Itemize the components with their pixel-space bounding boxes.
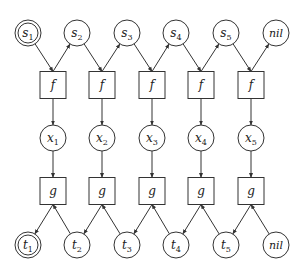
factor-box-g5: g bbox=[238, 178, 264, 205]
output-node-t1: t1 bbox=[15, 232, 41, 258]
edge-g2-to-t2 bbox=[84, 205, 102, 234]
node-label: nil bbox=[269, 239, 284, 252]
edge-t4-to-g3 bbox=[152, 205, 169, 234]
factor-box-f3: f bbox=[139, 72, 165, 99]
edge-g3-to-t3 bbox=[134, 205, 152, 234]
edge-s5-to-f5 bbox=[233, 44, 251, 72]
factor-label: g bbox=[197, 184, 205, 198]
factor-box-g1: g bbox=[40, 178, 66, 205]
edge-nil_bottom-to-g5 bbox=[251, 205, 269, 234]
factor-box-f5: f bbox=[238, 72, 264, 99]
node-label: nil bbox=[269, 27, 284, 40]
edge-g1-to-t1 bbox=[35, 205, 53, 234]
factor-box-f1: f bbox=[40, 72, 66, 99]
variable-node-x4: x4 bbox=[188, 125, 214, 151]
edge-t5-to-g4 bbox=[201, 205, 219, 234]
factor-box-f2: f bbox=[89, 72, 115, 99]
state-node-s5: s5 bbox=[213, 20, 239, 46]
state-node-s4: s4 bbox=[163, 20, 189, 46]
edge-t2-to-g1 bbox=[53, 205, 70, 234]
edge-s1-to-f1 bbox=[35, 44, 53, 72]
edge-f2-to-s3 bbox=[102, 44, 120, 72]
state-node-s1: s1 bbox=[15, 20, 41, 46]
edge-s4-to-f4 bbox=[183, 44, 201, 72]
edge-s2-to-f2 bbox=[84, 44, 102, 72]
factor-label: g bbox=[98, 184, 106, 198]
nodes: s1s2s3s4s5nilfffffx1x2x3x4x5gggggt1t2t3t… bbox=[15, 20, 289, 258]
output-node-nil_bottom: nil bbox=[263, 232, 289, 258]
factor-box-g2: g bbox=[89, 178, 115, 205]
factor-label: g bbox=[148, 184, 156, 198]
edge-g5-to-t5 bbox=[233, 205, 251, 234]
output-node-t4: t4 bbox=[163, 232, 189, 258]
edge-f4-to-s5 bbox=[201, 44, 219, 72]
factor-label: g bbox=[247, 184, 255, 198]
edge-f5-to-nil_top bbox=[251, 44, 269, 72]
state-node-s3: s3 bbox=[114, 20, 140, 46]
state-node-s2: s2 bbox=[64, 20, 90, 46]
output-node-t3: t3 bbox=[114, 232, 140, 258]
output-node-t2: t2 bbox=[64, 232, 90, 258]
edge-t3-to-g2 bbox=[102, 205, 120, 234]
variable-node-x5: x5 bbox=[238, 125, 264, 151]
factor-graph-diagram: s1s2s3s4s5nilfffffx1x2x3x4x5gggggt1t2t3t… bbox=[0, 0, 307, 276]
variable-node-x2: x2 bbox=[89, 125, 115, 151]
variable-node-x3: x3 bbox=[139, 125, 165, 151]
state-node-nil_top: nil bbox=[263, 20, 289, 46]
factor-box-f4: f bbox=[188, 72, 214, 99]
edge-f3-to-s4 bbox=[152, 44, 169, 71]
variable-node-x1: x1 bbox=[40, 125, 66, 151]
edge-s3-to-f3 bbox=[134, 44, 152, 72]
factor-label: g bbox=[49, 184, 57, 198]
factor-box-g3: g bbox=[139, 178, 165, 205]
output-node-t5: t5 bbox=[213, 232, 239, 258]
factor-box-g4: g bbox=[188, 178, 214, 205]
edge-f1-to-s2 bbox=[53, 44, 70, 71]
edge-g4-to-t4 bbox=[183, 205, 201, 234]
